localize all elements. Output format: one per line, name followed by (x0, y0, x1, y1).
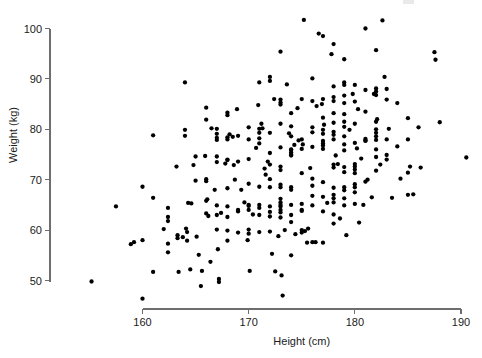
data-point (276, 234, 280, 238)
data-point (406, 193, 410, 197)
data-point (176, 270, 180, 274)
data-point (342, 112, 346, 116)
data-point (331, 212, 335, 216)
data-point (247, 208, 251, 212)
data-point (289, 188, 293, 192)
data-point (203, 154, 207, 158)
data-point (245, 238, 249, 242)
x-axis-title: Height (cm) (273, 335, 330, 347)
data-point (268, 75, 272, 79)
data-point (321, 195, 325, 199)
data-point (204, 118, 208, 122)
data-point (151, 133, 155, 137)
data-point (235, 107, 239, 111)
data-point (166, 219, 170, 223)
data-point (257, 131, 261, 135)
data-point (331, 111, 335, 115)
data-point (215, 154, 219, 158)
data-point (242, 200, 246, 204)
data-point (183, 80, 187, 84)
data-point (419, 165, 423, 169)
data-point (357, 220, 361, 224)
data-point (247, 157, 251, 161)
data-point (347, 128, 351, 132)
data-point (464, 155, 468, 159)
data-point (331, 42, 335, 46)
data-point (363, 88, 367, 92)
x-axis-tick-label: 190 (452, 316, 470, 328)
data-point (194, 235, 198, 239)
data-point (199, 284, 203, 288)
data-point (300, 202, 304, 206)
data-point (236, 134, 240, 138)
data-point (353, 99, 357, 103)
data-point (270, 252, 274, 256)
data-point (268, 214, 272, 218)
data-point (279, 273, 283, 277)
data-point (385, 87, 389, 91)
data-point (140, 238, 144, 242)
data-point (342, 142, 346, 146)
data-point (356, 107, 360, 111)
data-point (236, 159, 240, 163)
data-point (278, 168, 282, 172)
data-point (338, 216, 342, 220)
data-point (433, 58, 437, 62)
data-point (370, 195, 374, 199)
data-point (374, 48, 378, 52)
data-point (375, 117, 379, 121)
data-point (166, 242, 170, 246)
data-point (225, 113, 229, 117)
data-point (236, 209, 240, 213)
data-point (331, 99, 335, 103)
data-point (300, 137, 304, 141)
data-point (257, 136, 261, 140)
data-point (342, 165, 346, 169)
y-axis-title: Weight (kg) (7, 107, 19, 163)
data-point (247, 182, 251, 186)
data-point (351, 92, 355, 96)
data-point (225, 239, 229, 243)
data-point (225, 186, 229, 190)
data-point (331, 200, 335, 204)
data-point (233, 178, 237, 182)
x-axis-tick-label: 180 (346, 316, 364, 328)
plot-canvas: 5060708090100Weight (kg)160170180190Heig… (0, 0, 482, 358)
data-point (278, 50, 282, 54)
data-point (361, 203, 365, 207)
data-point (385, 157, 389, 161)
data-point (344, 233, 348, 237)
data-point (289, 111, 293, 115)
data-point (305, 241, 309, 245)
data-point (331, 84, 335, 88)
data-point (289, 203, 293, 207)
data-point (321, 209, 325, 213)
data-point (208, 260, 212, 264)
data-point (406, 137, 410, 141)
data-point (287, 131, 291, 135)
data-point (342, 83, 346, 87)
data-point (262, 166, 266, 170)
data-point (215, 160, 219, 164)
data-point (239, 188, 243, 192)
data-point (236, 230, 240, 234)
data-point (268, 185, 272, 189)
data-point (300, 97, 304, 101)
data-point (331, 186, 335, 190)
data-point (193, 179, 197, 183)
data-point (259, 122, 263, 126)
data-point (353, 141, 357, 145)
data-point (205, 197, 209, 201)
data-point (232, 163, 236, 167)
data-point (278, 102, 282, 106)
data-point (268, 79, 272, 83)
data-point (223, 161, 227, 165)
y-axis-tick-label: 80 (30, 123, 42, 135)
data-point (257, 185, 261, 189)
data-point (206, 214, 210, 218)
data-point (183, 134, 187, 138)
data-point (336, 162, 340, 166)
data-point (289, 124, 293, 128)
data-point (268, 204, 272, 208)
data-point (432, 50, 436, 54)
